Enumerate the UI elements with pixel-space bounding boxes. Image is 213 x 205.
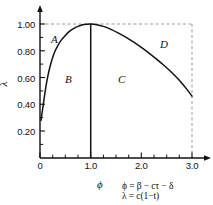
boundary-curve xyxy=(41,24,192,121)
y-axis-title: λ xyxy=(0,82,9,87)
y-tick-label-1: 1.00 xyxy=(1,19,35,30)
x-axis-arrow xyxy=(204,155,211,161)
region-label-d: D xyxy=(160,38,168,50)
region-label-b: B xyxy=(65,73,72,85)
x-axis-title: ϕ xyxy=(97,178,103,190)
phase-diagram-figure: 1.00 0.80 0.60 0.40 0.20 0 1.0 2.0 3.0 λ… xyxy=(0,0,213,205)
region-label-a: A xyxy=(51,33,58,45)
y-tick-label-2: 0.80 xyxy=(1,46,35,57)
region-label-c: C xyxy=(118,73,125,85)
y-tick-label-4: 0.40 xyxy=(1,99,35,110)
y-axis-arrow xyxy=(37,5,43,12)
x-tick-label-4: 3.0 xyxy=(179,160,205,171)
x-tick-label-3: 2.0 xyxy=(128,160,154,171)
x-tick-label-1: 0 xyxy=(27,160,53,171)
equation-phi: ϕ = β − cτ − δ xyxy=(122,181,173,191)
equation-lambda: λ = c(1−t) xyxy=(122,191,159,201)
y-tick-label-5: 0.20 xyxy=(1,126,35,137)
x-tick-label-2: 1.0 xyxy=(78,160,104,171)
